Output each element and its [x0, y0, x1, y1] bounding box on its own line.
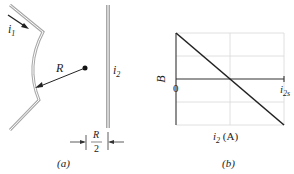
distance-numerator: R: [93, 130, 99, 140]
x-end-subscript: 2s: [283, 89, 290, 98]
x-axis-label: i2 (A): [213, 131, 238, 145]
radius-label: R: [56, 62, 63, 74]
figure-drawing: [0, 0, 294, 174]
current-2-label: i2: [113, 64, 120, 79]
figure: i1 R i2 R 2 (a) B 0 i2s i2 (A) (b): [0, 0, 294, 174]
current-1-subscript: 1: [11, 29, 15, 38]
origin-label: 0: [173, 83, 179, 94]
wire-2: [106, 5, 110, 128]
x-end-label: i2s: [280, 84, 290, 98]
y-axis-label: B: [155, 75, 167, 82]
current-1-label: i1: [8, 23, 15, 38]
caption-b: (b): [222, 158, 235, 169]
current-2-subscript: 2: [116, 70, 120, 79]
distance-denominator: 2: [94, 144, 99, 154]
caption-a: (a): [57, 158, 70, 169]
x-axis-unit: (A): [220, 130, 238, 142]
